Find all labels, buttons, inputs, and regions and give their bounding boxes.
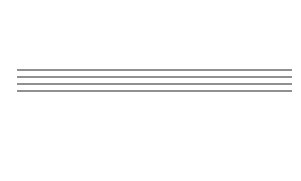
decoder-diagram — [0, 0, 301, 181]
